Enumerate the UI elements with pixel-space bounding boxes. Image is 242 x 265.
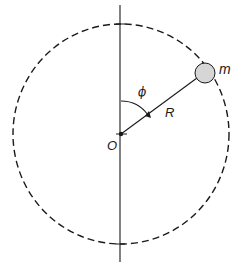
circular-motion-diagram: m R ϕ O bbox=[0, 0, 242, 265]
angle-arc bbox=[121, 101, 148, 115]
radius-line bbox=[121, 78, 197, 134]
mass-ball bbox=[195, 63, 215, 83]
origin-label: O bbox=[107, 138, 117, 153]
angle-label: ϕ bbox=[138, 85, 146, 99]
mass-label: m bbox=[219, 61, 231, 77]
radius-label: R bbox=[165, 105, 174, 120]
